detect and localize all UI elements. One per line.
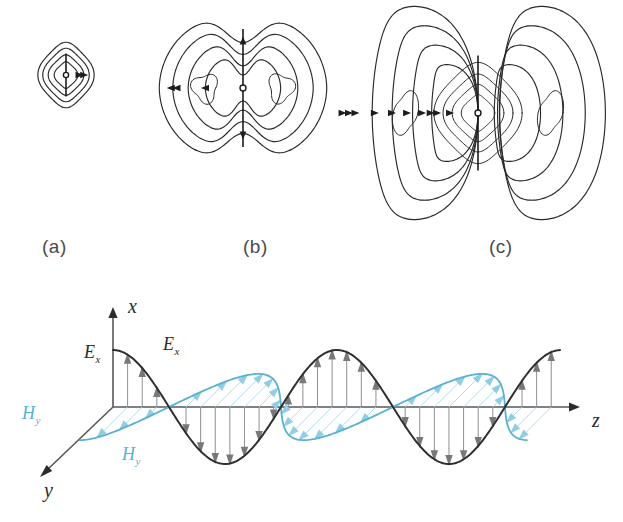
figure-root: (a) (b) (c) x y z ExExHyHy <box>0 0 623 522</box>
y-axis-label: y <box>42 479 53 502</box>
coordinate-axes <box>40 307 580 477</box>
H-axis-label: Hy <box>21 403 41 426</box>
caption-fragment <box>0 512 623 522</box>
E-axis-label: Ex <box>83 342 101 365</box>
y-axis-line <box>47 407 113 470</box>
z-axis-label: z <box>591 409 600 431</box>
plane-wave-layer: x y z ExExHyHy <box>0 0 623 522</box>
x-axis-label: x <box>127 295 137 317</box>
H-curve-label: Hy <box>121 444 141 467</box>
field-labels-group: ExExHyHy <box>21 334 180 467</box>
z-axis-arrowhead <box>569 402 580 411</box>
x-axis-arrowhead <box>108 307 117 318</box>
E-curve-label: Ex <box>162 334 180 357</box>
